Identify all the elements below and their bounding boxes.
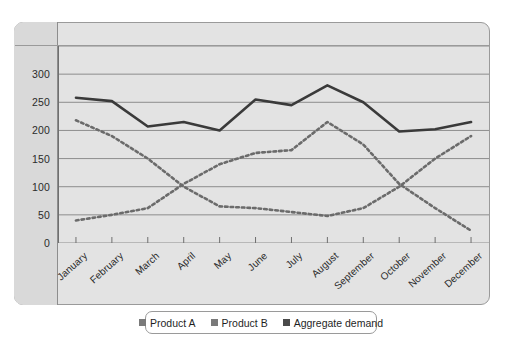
x-axis-labels: JanuaryFebruaryMarchAprilMayJuneJulyAugu… xyxy=(58,246,489,304)
x-tick-label: June xyxy=(245,250,269,273)
x-tick-label: October xyxy=(378,250,412,282)
x-tick-label: April xyxy=(174,250,197,272)
chart-screenshot: 050100150200250300 JanuaryFebruaryMarchA… xyxy=(0,0,515,363)
x-tick-label: March xyxy=(133,250,161,277)
x-tick-label: July xyxy=(284,250,305,270)
legend-item[interactable]: Product B xyxy=(211,317,268,329)
x-tick-label: May xyxy=(211,250,233,271)
x-tick-label: February xyxy=(88,250,126,285)
legend-swatch-icon xyxy=(283,319,290,326)
y-tick-label: 50 xyxy=(38,209,50,221)
legend-swatch-icon xyxy=(139,319,146,326)
plot-area xyxy=(58,46,489,243)
y-tick-label: 200 xyxy=(32,124,50,136)
legend-item[interactable]: Aggregate demand xyxy=(283,317,383,329)
x-tick-label: December xyxy=(442,250,484,290)
y-tick-label: 250 xyxy=(32,96,50,108)
legend-label: Aggregate demand xyxy=(294,317,383,329)
x-tick-label: January xyxy=(55,250,89,282)
legend-label: Product A xyxy=(150,317,196,329)
legend-label: Product B xyxy=(222,317,268,329)
x-tick-label: August xyxy=(310,250,341,279)
legend-swatch-icon xyxy=(211,319,218,326)
legend-item[interactable]: Product A xyxy=(139,317,196,329)
line-chart-svg xyxy=(58,46,489,243)
x-tick-label: November xyxy=(406,250,448,290)
y-tick-label: 300 xyxy=(32,68,50,80)
y-tick-label: 100 xyxy=(32,181,50,193)
y-tick-label: 150 xyxy=(32,153,50,165)
y-tick-label: 0 xyxy=(44,237,50,249)
chart-legend: Product AProduct BAggregate demand xyxy=(145,311,377,334)
y-axis-labels: 050100150200250300 xyxy=(14,22,58,305)
